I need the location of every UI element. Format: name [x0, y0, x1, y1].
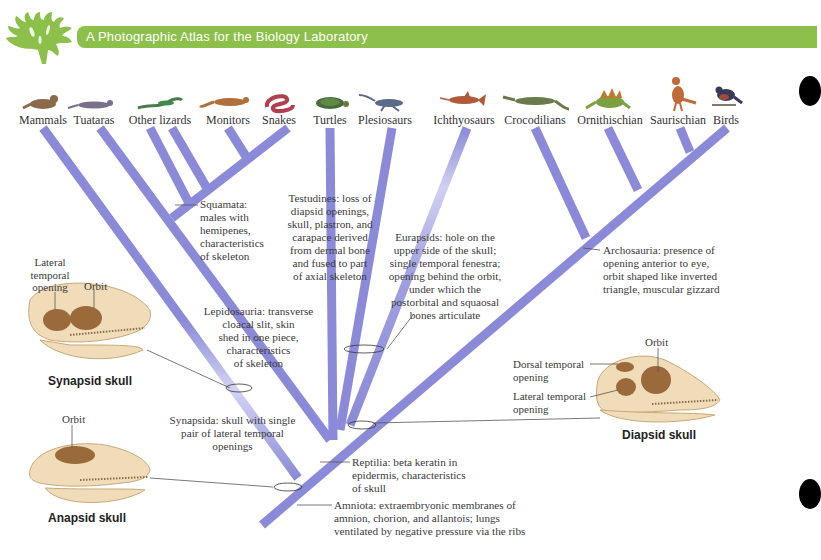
page-tab-marker-bottom: [799, 479, 821, 509]
page-tab-marker-top: [799, 76, 821, 106]
anapsid-skull-icon: [30, 425, 150, 503]
anapsid-skull-title: Anapsid skull: [48, 511, 126, 525]
diapsid-dorsal-label: Dorsal temporal opening: [513, 358, 584, 383]
synapsid-lateral-label: Lateral temporal opening: [25, 256, 75, 294]
diapsid-lateral-label: Lateral temporal opening: [513, 390, 586, 415]
synapsid-skull-title: Synapsid skull: [48, 374, 132, 388]
anapsid-orbit-label: Orbit: [62, 413, 85, 426]
diapsid-skull-title: Diapsid skull: [622, 428, 696, 442]
synapsid-skull-icon: [29, 283, 151, 359]
synapsid-orbit-label: Orbit: [84, 280, 107, 293]
diapsid-skull-icon: [590, 348, 720, 422]
diapsid-orbit-label: Orbit: [645, 336, 668, 349]
